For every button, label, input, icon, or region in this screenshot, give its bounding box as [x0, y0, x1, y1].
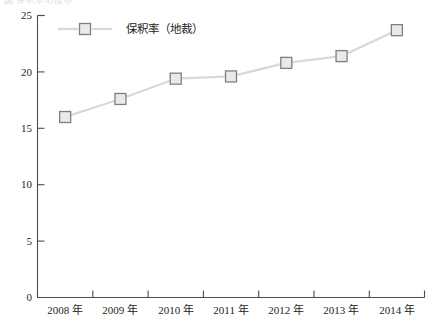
data-point-marker — [281, 57, 292, 68]
x-tick-label-2013: 2013 年 — [323, 303, 359, 316]
x-axis-ticks — [38, 291, 425, 298]
series-bail-rate-district-court — [60, 25, 403, 123]
x-tick-label-2014: 2014 年 — [379, 303, 415, 316]
y-tick-label-5: 5 — [27, 235, 33, 247]
legend-marker-square — [80, 24, 91, 35]
chart-figure: 図 保釈率の推移 25 20 15 10 5 0 — [0, 0, 440, 327]
chart-axes — [38, 16, 425, 298]
x-tick-label-2009: 2009 年 — [102, 303, 138, 316]
y-tick-label-15: 15 — [21, 122, 33, 134]
legend-label-bail-rate: 保釈率（地裁） — [126, 22, 203, 35]
x-axis-labels: 2008 年 2009 年 2010 年 2011 年 2012 年 2013 … — [47, 303, 415, 316]
y-axis-ticks: 25 20 15 10 5 0 — [21, 9, 45, 303]
line-chart-plot: 25 20 15 10 5 0 2008 年 2009 年 2010 年 201… — [0, 0, 440, 327]
data-point-marker — [226, 71, 237, 82]
y-tick-label-20: 20 — [21, 66, 33, 78]
data-point-marker — [60, 112, 71, 123]
y-tick-label-0: 0 — [27, 291, 33, 303]
data-point-marker — [115, 93, 126, 104]
y-tick-label-25: 25 — [21, 9, 33, 21]
chart-legend: 保釈率（地裁） — [58, 22, 203, 35]
y-tick-label-10: 10 — [21, 178, 33, 190]
x-tick-label-2010: 2010 年 — [158, 303, 194, 316]
data-point-marker — [391, 25, 402, 36]
x-tick-label-2011: 2011 年 — [213, 303, 248, 316]
data-point-marker — [336, 51, 347, 62]
x-tick-label-2008: 2008 年 — [47, 303, 83, 316]
data-point-marker — [170, 73, 181, 84]
series-marker-group — [60, 25, 403, 123]
x-tick-label-2012: 2012 年 — [268, 303, 304, 316]
